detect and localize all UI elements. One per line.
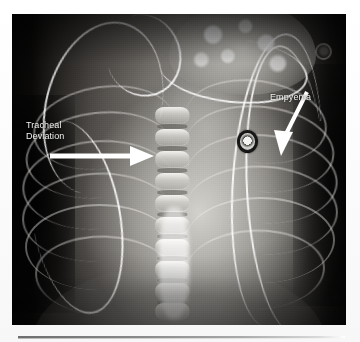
label-tracheal-deviation: Tracheal Deviation [26,120,64,142]
horizontal-rule-shadow [18,338,345,339]
label-empyema: Empyema [270,92,311,103]
chest-radiograph: Tracheal Deviation Empyema [12,14,346,325]
annotation-arrows [12,14,346,325]
document-page: Tracheal Deviation Empyema [0,0,360,342]
arrow-tracheal-deviation [50,146,154,166]
